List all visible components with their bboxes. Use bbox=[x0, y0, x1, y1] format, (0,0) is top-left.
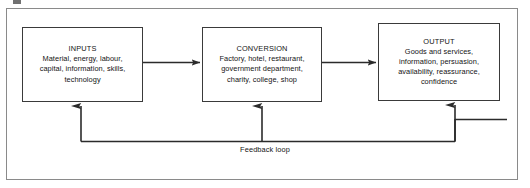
box-conversion-line-1: Factory, hotel, restaurant, bbox=[219, 54, 304, 64]
box-output-line-2: information, persuasion, bbox=[398, 57, 480, 67]
box-output-line-1: Goods and services, bbox=[398, 47, 480, 57]
box-inputs-title: INPUTS bbox=[68, 44, 96, 54]
process-box-inputs: INPUTS Material, energy, labour, capital… bbox=[22, 27, 143, 102]
box-inputs-body: Material, energy, labour, capital, infor… bbox=[40, 54, 126, 85]
box-conversion-line-3: charity, college, shop bbox=[219, 75, 304, 85]
box-conversion-line-2: government department, bbox=[219, 64, 304, 74]
box-inputs-line-1: Material, energy, labour, bbox=[40, 54, 126, 64]
box-conversion-title: CONVERSION bbox=[236, 44, 287, 54]
process-diagram: INPUTS Material, energy, labour, capital… bbox=[0, 0, 530, 188]
box-inputs-line-3: technology bbox=[40, 75, 126, 85]
box-output-title: OUTPUT bbox=[423, 37, 454, 47]
process-box-output: OUTPUT Goods and services, information, … bbox=[378, 23, 500, 101]
process-box-conversion: CONVERSION Factory, hotel, restaurant, g… bbox=[202, 27, 322, 102]
feedback-loop-label: Feedback loop bbox=[0, 145, 530, 155]
box-output-line-4: confidence bbox=[398, 77, 480, 87]
box-output-line-3: availability, reassurance, bbox=[398, 67, 480, 77]
box-output-body: Goods and services, information, persuas… bbox=[398, 47, 480, 88]
box-inputs-line-2: capital, information, skills, bbox=[40, 64, 126, 74]
scan-artifact-mark bbox=[13, 0, 21, 4]
box-conversion-body: Factory, hotel, restaurant, government d… bbox=[219, 54, 304, 85]
